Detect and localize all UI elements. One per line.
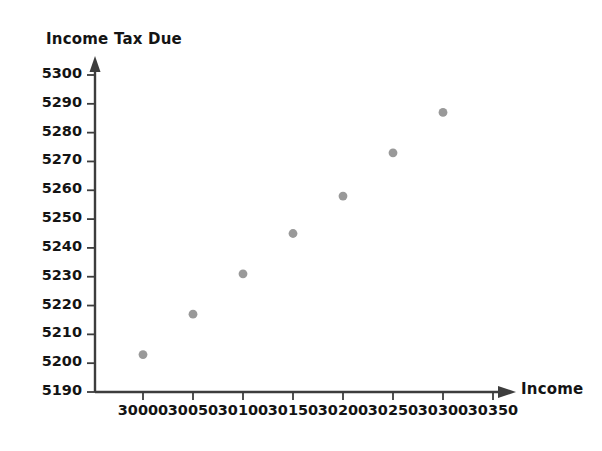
y-axis-tick-label: 5200 <box>22 353 82 369</box>
y-axis-tick-label: 5290 <box>22 94 82 110</box>
y-axis-tick-label: 5270 <box>22 151 82 167</box>
data-point <box>439 108 448 117</box>
y-axis-tick-label: 5280 <box>22 123 82 139</box>
y-axis-tick-label: 5300 <box>22 65 82 81</box>
scatter-chart: Income Tax Due Income 519052005210522052… <box>0 0 602 451</box>
data-point <box>239 269 248 278</box>
y-axis-tick-label: 5220 <box>22 296 82 312</box>
x-axis-arrowhead <box>498 386 516 398</box>
y-axis-tick-label: 5210 <box>22 324 82 340</box>
data-point <box>389 148 398 157</box>
y-axis-tick-label: 5260 <box>22 180 82 196</box>
data-point <box>289 229 298 238</box>
x-axis-tick-label: 30350 <box>463 402 523 418</box>
y-axis-tick-label: 5190 <box>22 382 82 398</box>
data-point-series <box>139 108 448 359</box>
data-point <box>189 310 198 319</box>
y-axis-tick-label: 5250 <box>22 209 82 225</box>
plot-area <box>0 0 602 451</box>
axis-lines <box>90 56 517 398</box>
x-axis-ticks <box>143 392 493 400</box>
data-point <box>339 192 348 201</box>
data-point <box>139 350 148 359</box>
y-axis-arrowhead <box>90 56 101 72</box>
y-axis-tick-label: 5230 <box>22 267 82 283</box>
y-axis-tick-label: 5240 <box>22 238 82 254</box>
